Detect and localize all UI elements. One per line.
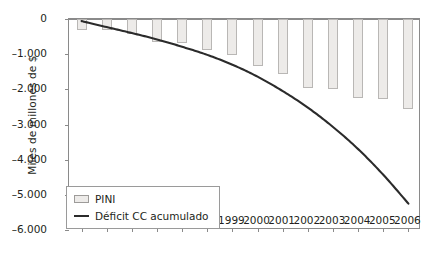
line-swatch-icon (74, 215, 89, 217)
x-axis-tick (358, 228, 359, 232)
x-axis-tick (383, 228, 384, 232)
legend-item-pini: PINI (74, 192, 209, 206)
legend-label-deficit-cc-acumulado: Déficit CC acumulado (95, 210, 209, 222)
y-axis-tick-label: –4.000 (0, 153, 47, 165)
y-axis-tick-label: –2.000 (0, 82, 47, 94)
y-axis-tick-label: –6.000 (0, 223, 47, 235)
x-axis-tick (258, 228, 259, 232)
x-axis-tick (408, 228, 409, 232)
legend-item-deficit-cc-acumulado: Déficit CC acumulado (74, 209, 209, 223)
y-axis-tick-label: 0 (0, 12, 47, 24)
chart-figure: Miles de millones de $ 0–1.000–2.000–3.0… (0, 0, 437, 268)
y-axis-tick-label: –3.000 (0, 118, 47, 130)
legend-label-pini: PINI (95, 193, 115, 205)
x-axis-tick (232, 228, 233, 232)
deficit-line-path (82, 21, 409, 204)
y-axis-tick (65, 230, 69, 231)
x-axis-tick (308, 228, 309, 232)
x-axis-tick (333, 228, 334, 232)
x-axis-tick (283, 228, 284, 232)
bar-swatch-icon (74, 195, 89, 203)
chart-legend: PINI Déficit CC acumulado (66, 186, 220, 229)
y-axis-tick-label: –5.000 (0, 188, 47, 200)
x-axis-tick-label-2006: 2006 (387, 214, 427, 226)
y-axis-tick-label: –1.000 (0, 47, 47, 59)
